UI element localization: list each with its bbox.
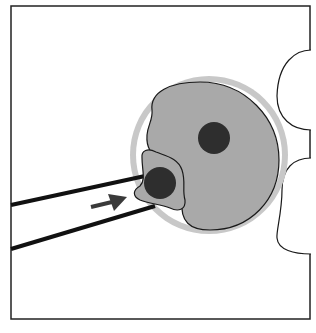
nuclear-transfer-diagram [0,0,316,333]
oocyte-nucleus [198,122,230,154]
donor-nucleus [144,167,176,199]
